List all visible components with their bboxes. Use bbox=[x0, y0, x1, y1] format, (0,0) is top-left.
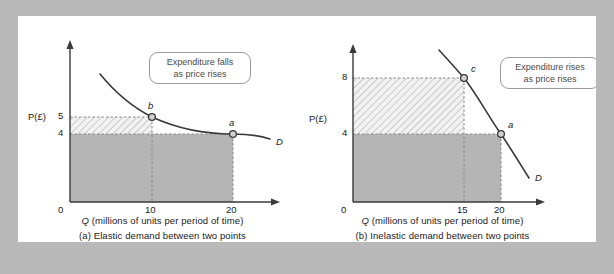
y-tick-8-b: 8 bbox=[342, 71, 347, 82]
chart-panel-b: P(£) 8 4 0 15 20 c a D Expenditure rises… bbox=[298, 16, 587, 242]
demand-curve-label-a: D bbox=[276, 136, 283, 147]
data-point-a bbox=[498, 131, 505, 138]
y-tick-4-b: 4 bbox=[342, 127, 347, 138]
x-axis-caption-b: Q (millions of units per period of time) bbox=[298, 215, 587, 226]
callout-expenditure-rises: Expenditure rises as price rises bbox=[500, 57, 596, 89]
x-tick-10-a: 10 bbox=[145, 204, 156, 215]
origin-label-a: 0 bbox=[58, 204, 63, 215]
y-tick-5-a: 5 bbox=[58, 110, 63, 121]
x-axis-arrow bbox=[536, 198, 545, 205]
point-label-a: a bbox=[508, 119, 513, 130]
point-label-c: c bbox=[471, 63, 476, 74]
point-label-b: b bbox=[148, 100, 153, 111]
point-label-a: a bbox=[229, 117, 234, 128]
x-tick-20-a: 20 bbox=[226, 204, 237, 215]
x-axis-symbol-a: Q bbox=[82, 215, 90, 226]
region-base-expenditure bbox=[353, 134, 501, 202]
data-point-a bbox=[230, 131, 237, 138]
y-axis-arrow bbox=[66, 40, 73, 49]
data-point-c bbox=[461, 75, 468, 82]
y-tick-4-a: 4 bbox=[58, 127, 63, 138]
callout-line-1: Expenditure rises bbox=[507, 62, 593, 74]
chart-panel-a: P(£) 5 4 0 10 20 b a D Expenditure falls… bbox=[18, 16, 307, 242]
region-price-rise-hatched bbox=[70, 117, 152, 134]
callout-line-1: Expenditure falls bbox=[156, 57, 244, 69]
demand-curve-label-b: D bbox=[535, 172, 542, 183]
panel-caption-b: (b) Inelastic demand between two points bbox=[298, 230, 587, 241]
x-tick-20-b: 20 bbox=[494, 204, 505, 215]
x-axis-text-b: (millions of units per period of time) bbox=[372, 215, 524, 226]
callout-line-2: as price rises bbox=[507, 74, 593, 86]
x-axis-symbol-b: Q bbox=[362, 215, 370, 226]
origin-label-b: 0 bbox=[341, 204, 346, 215]
x-tick-15-b: 15 bbox=[457, 204, 468, 215]
panel-caption-a: (a) Elastic demand between two points bbox=[18, 230, 307, 241]
x-axis-text-a: (millions of units per period of time) bbox=[92, 215, 244, 226]
figure-frame: P(£) 5 4 0 10 20 b a D Expenditure falls… bbox=[0, 0, 614, 274]
x-axis-arrow bbox=[271, 198, 280, 205]
callout-expenditure-falls: Expenditure falls as price rises bbox=[149, 52, 251, 84]
figure-canvas: P(£) 5 4 0 10 20 b a D Expenditure falls… bbox=[18, 16, 596, 242]
y-axis-arrow bbox=[349, 44, 356, 53]
y-axis-label-b: P(£) bbox=[309, 113, 327, 124]
y-axis-label-a: P(£) bbox=[28, 111, 46, 122]
data-point-b bbox=[149, 114, 156, 121]
callout-line-2: as price rises bbox=[156, 69, 244, 81]
x-axis-caption-a: Q (millions of units per period of time) bbox=[18, 215, 307, 226]
region-price-rise-hatched bbox=[353, 78, 464, 134]
